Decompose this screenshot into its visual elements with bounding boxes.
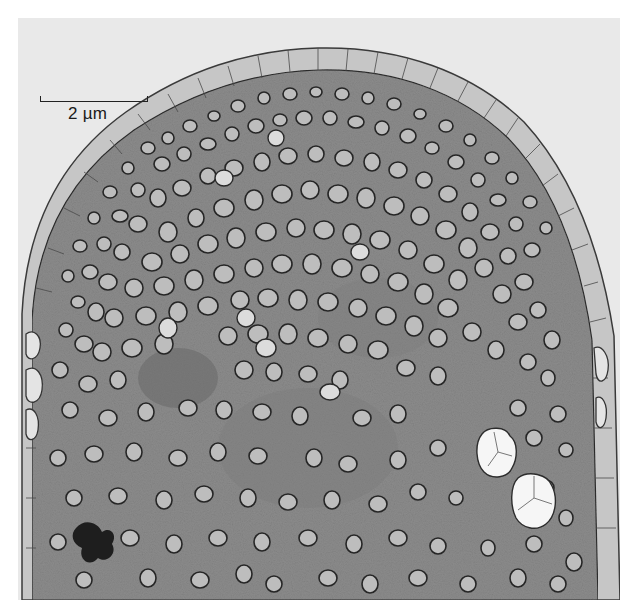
scale-bar-label: 2 µm (68, 104, 107, 124)
scale-bar-line (40, 96, 148, 102)
micrograph-frame: 2 µm (18, 18, 620, 600)
scale-bar: 2 µm (40, 88, 150, 138)
